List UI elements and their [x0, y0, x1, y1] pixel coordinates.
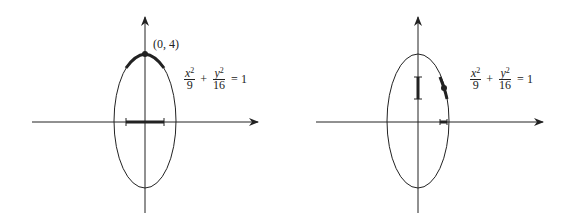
left-panel [32, 17, 258, 213]
right-eq-equals: = [517, 72, 524, 87]
left-eq-term2: y2 16 [212, 68, 226, 91]
left-eq-term1-den: 9 [186, 80, 194, 91]
left-eq-term2-den: 16 [212, 80, 226, 91]
right-equation: x2 9 + y2 16 = 1 [468, 68, 533, 91]
left-point-label: (0, 4) [153, 37, 179, 52]
right-eq-plus: + [486, 72, 493, 87]
right-eq-term1: x2 9 [470, 68, 481, 91]
right-panel [316, 17, 543, 213]
figure-canvas [0, 0, 570, 224]
left-equation: x2 9 + y2 16 = 1 [182, 68, 247, 91]
right-eq-term2: y2 16 [498, 68, 512, 91]
left-eq-plus: + [200, 72, 207, 87]
right-eq-rhs: 1 [527, 72, 533, 87]
right-eq-term1-exp: 2 [476, 66, 480, 75]
right-eq-term1-den: 9 [472, 80, 480, 91]
left-eq-equals: = [231, 72, 238, 87]
left-eq-rhs: 1 [241, 72, 247, 87]
right-eq-term2-exp: 2 [506, 66, 510, 75]
right-point [441, 85, 447, 91]
left-eq-term1: x2 9 [184, 68, 195, 91]
left-point-0-4 [142, 51, 148, 57]
right-eq-term2-den: 16 [498, 80, 512, 91]
left-eq-term1-exp: 2 [190, 66, 194, 75]
left-eq-term2-exp: 2 [220, 66, 224, 75]
